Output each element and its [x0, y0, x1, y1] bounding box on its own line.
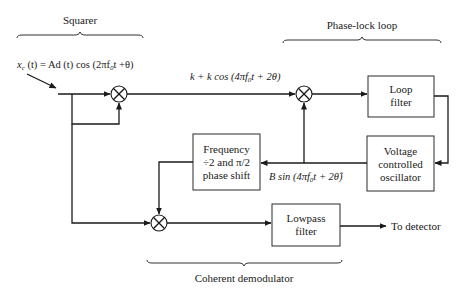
svg-text:÷2 and π/2: ÷2 and π/2	[203, 156, 250, 168]
input-signal-label: xc (t) = Ad (t) cos (2πf0t +θ)	[16, 59, 134, 72]
demod-multiplier-icon	[151, 215, 167, 231]
svg-text:Loop: Loop	[389, 83, 413, 95]
demod-input-wire	[72, 124, 150, 223]
block-diagram: Squarer Phase-lock loop Coherent demodul…	[0, 0, 466, 294]
demod-brace	[147, 260, 342, 266]
lowpass-filter-block: Lowpass filter	[272, 204, 340, 246]
frequency-divider-block: Frequency ÷2 and π/2 phase shift	[193, 134, 260, 190]
squared-signal-label: k + k cos (4πf0t + 2θ)	[190, 71, 281, 84]
svg-text:Lowpass: Lowpass	[286, 212, 325, 224]
svg-text:Voltage: Voltage	[384, 145, 418, 157]
svg-text:oscillator: oscillator	[380, 171, 421, 183]
pll-multiplier-icon	[296, 86, 312, 102]
pll-brace	[283, 37, 441, 43]
squarer-label: Squarer	[63, 14, 98, 26]
svg-text:Frequency: Frequency	[203, 143, 250, 155]
svg-text:controlled: controlled	[378, 158, 423, 170]
reference-carrier-wire	[159, 162, 193, 214]
demod-label: Coherent demodulator	[195, 272, 294, 284]
squarer-brace	[17, 32, 143, 38]
pll-label: Phase-lock loop	[327, 19, 398, 31]
input-pointer-arrow	[27, 74, 56, 88]
svg-text:filter: filter	[295, 225, 317, 237]
svg-text:phase shift: phase shift	[203, 169, 250, 181]
svg-text:filter: filter	[390, 96, 412, 108]
vco-block: Voltage controlled oscillator	[367, 136, 434, 191]
squarer-multiplier-icon	[111, 86, 127, 102]
vco-signal-label: B sin (4πf0t + 2θ̂)	[269, 171, 343, 184]
loop-filter-to-vco-wire	[434, 96, 448, 163]
loop-filter-block: Loop filter	[368, 76, 434, 117]
to-detector-label: To detector	[391, 220, 441, 232]
